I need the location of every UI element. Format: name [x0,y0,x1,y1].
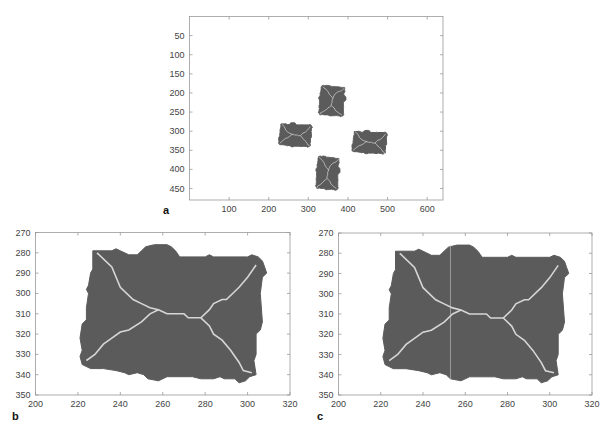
x-tick-label: 200 [261,204,276,214]
y-tick-label: 350 [318,390,333,400]
x-tick-label: 220 [373,399,388,409]
y-tick-label: 100 [169,50,184,60]
y-tick-label: 340 [318,370,333,380]
panel-a: 1002003004005006005010015020025030035040… [0,0,612,220]
y-tick-label: 330 [318,350,333,360]
particle-top [318,85,346,116]
y-tick-label: 450 [169,184,184,194]
y-tick-label: 250 [169,107,184,117]
y-tick-label: 290 [318,269,333,279]
x-tick-label: 320 [584,399,599,409]
panel-c-plot: 2002202402602803003202702802903003103203… [303,220,612,427]
y-tick-label: 270 [15,228,30,238]
y-tick-label: 300 [15,288,30,298]
x-tick-label: 240 [415,399,430,409]
panel-b: 2002202402602803003202702802903003103203… [0,220,306,427]
particle-left [279,123,313,147]
panel-b-label: b [12,410,19,422]
x-tick-label: 200 [28,399,43,409]
particle [383,245,569,383]
particle [80,245,267,383]
x-tick-label: 200 [331,399,346,409]
y-tick-label: 300 [169,126,184,136]
x-tick-label: 300 [240,399,255,409]
x-tick-label: 500 [380,204,395,214]
y-tick-label: 300 [318,289,333,299]
x-tick-label: 280 [198,399,213,409]
y-tick-label: 320 [318,329,333,339]
y-tick-label: 310 [15,309,30,319]
x-tick-label: 300 [301,204,316,214]
y-tick-label: 270 [318,228,333,238]
x-tick-label: 600 [420,204,435,214]
particle-right [352,130,388,154]
y-tick-label: 400 [169,164,184,174]
x-tick-label: 260 [458,399,473,409]
x-tick-label: 280 [500,399,515,409]
particle-bottom [316,156,341,190]
y-tick-label: 150 [169,69,184,79]
particle [352,130,388,154]
panel-c: 2002202402602803003202702802903003103203… [303,220,612,427]
x-tick-label: 320 [282,399,297,409]
x-tick-label: 220 [70,399,85,409]
x-tick-label: 260 [155,399,170,409]
y-tick-label: 290 [15,268,30,278]
panel-c-label: c [317,410,323,422]
particle [279,123,313,147]
y-tick-label: 350 [15,390,30,400]
x-tick-label: 400 [340,204,355,214]
panel-a-label: a [163,204,169,216]
panel-b-plot: 2002202402602803003202702802903003103203… [0,220,306,427]
panel-a-plot: 1002003004005006005010015020025030035040… [0,0,612,220]
y-tick-label: 200 [169,88,184,98]
y-tick-label: 320 [15,329,30,339]
y-tick-label: 340 [15,370,30,380]
y-tick-label: 50 [174,31,184,41]
y-tick-label: 310 [318,309,333,319]
x-tick-label: 240 [113,399,128,409]
x-tick-label: 100 [222,204,237,214]
y-tick-label: 350 [169,145,184,155]
x-tick-label: 300 [542,399,557,409]
y-tick-label: 330 [15,349,30,359]
y-tick-label: 280 [15,248,30,258]
axes: 1002003004005006005010015020025030035040… [169,17,443,215]
y-tick-label: 280 [318,248,333,258]
